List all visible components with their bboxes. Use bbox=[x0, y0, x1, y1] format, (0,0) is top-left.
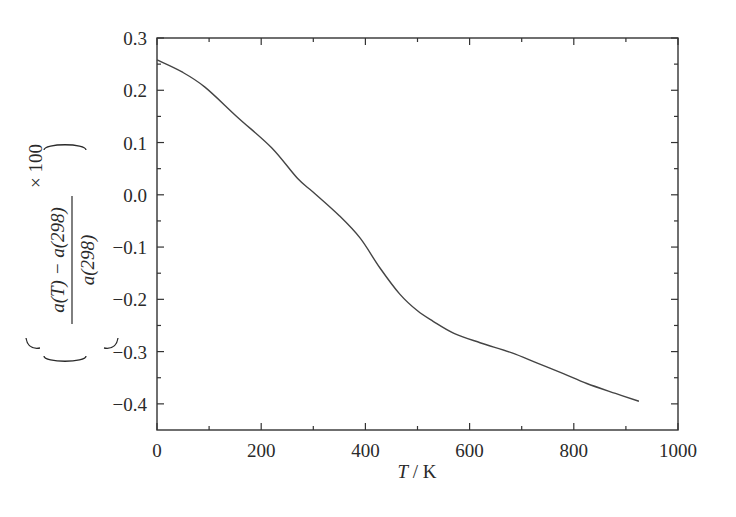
y-label-multiplier: × 100 bbox=[25, 144, 46, 188]
right-paren bbox=[44, 145, 86, 150]
y-label-denominator: a(298) bbox=[77, 235, 99, 286]
y-tick-labels: 0.30.20.10.0−0.1−0.2−0.3−0.4 bbox=[113, 28, 148, 415]
y-tick-label: 0.0 bbox=[123, 185, 147, 206]
y-label-numerator: a(T) − a(298) bbox=[47, 207, 69, 313]
y-tick-label: 0.2 bbox=[123, 80, 147, 101]
axis-ticks bbox=[157, 38, 678, 430]
x-tick-label: 200 bbox=[247, 440, 276, 461]
left-paren bbox=[26, 338, 118, 348]
y-tick-label: −0.1 bbox=[113, 237, 147, 258]
y-tick-label: −0.3 bbox=[113, 342, 147, 363]
y-axis-title: a(T) − a(298) a(298) × 100 bbox=[25, 144, 118, 355]
plot-frame bbox=[157, 38, 678, 430]
y-tick-label: 0.1 bbox=[123, 133, 147, 154]
y-tick-label: 0.3 bbox=[123, 28, 147, 49]
x-tick-label: 400 bbox=[351, 440, 380, 461]
y-tick-label: −0.4 bbox=[113, 394, 148, 415]
x-tick-label: 600 bbox=[455, 440, 484, 461]
x-tick-label: 800 bbox=[560, 440, 589, 461]
line-chart: 02004006008001000 0.30.20.10.0−0.1−0.2−0… bbox=[0, 0, 736, 517]
plot-border bbox=[157, 38, 678, 430]
x-axis-title: T / K bbox=[397, 461, 436, 482]
x-tick-label: 1000 bbox=[659, 440, 697, 461]
data-line bbox=[157, 60, 639, 401]
x-tick-label: 0 bbox=[152, 440, 162, 461]
y-tick-label: −0.2 bbox=[113, 289, 147, 310]
x-tick-labels: 02004006008001000 bbox=[152, 440, 697, 461]
left-paren-bottom bbox=[44, 356, 86, 361]
